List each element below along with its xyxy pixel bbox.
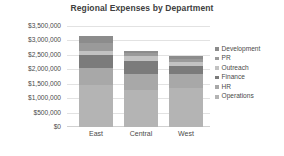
legend-label: Operations — [222, 93, 254, 100]
bar-segment-finance[interactable] — [124, 61, 158, 74]
legend-item-hr[interactable]: HR — [215, 82, 284, 92]
legend-label: PR — [222, 55, 231, 62]
bar-segment-operations[interactable] — [169, 88, 203, 127]
y-axis: $3,500,000$3,000,000$2,500,000$2,000,000… — [0, 26, 64, 127]
bar-segment-hr[interactable] — [124, 74, 158, 90]
chart-title: Regional Expenses by Department — [0, 3, 284, 13]
bar-segment-pr[interactable] — [79, 43, 113, 50]
y-axis-tick-label: $3,500,000 — [28, 23, 61, 30]
legend-item-pr[interactable]: PR — [215, 54, 284, 64]
bar-segment-development[interactable] — [79, 36, 113, 43]
plot-area: EastCentralWest — [67, 26, 210, 127]
y-axis-tick-label: $3,000,000 — [28, 37, 61, 44]
chart-container: Regional Expenses by Department $3,500,0… — [0, 0, 284, 156]
legend-swatch-icon — [215, 85, 219, 89]
y-axis-tick-label: $1,000,000 — [28, 95, 61, 102]
legend-label: Outreach — [222, 65, 249, 72]
legend-label: HR — [222, 84, 232, 91]
legend-swatch-icon — [215, 47, 219, 51]
legend-label: Development — [222, 46, 261, 53]
stacked-bar[interactable] — [169, 56, 203, 127]
legend-swatch-icon — [215, 76, 219, 80]
bar-segment-hr[interactable] — [169, 74, 203, 88]
legend-label: Finance — [222, 74, 245, 81]
bar-segment-finance[interactable] — [79, 55, 113, 68]
y-axis-tick-label: $500,000 — [33, 109, 61, 116]
y-axis-tick-label: $1,500,000 — [28, 80, 61, 87]
legend-swatch-icon — [215, 57, 219, 61]
stacked-bar[interactable] — [79, 36, 113, 127]
legend-item-development[interactable]: Development — [215, 44, 284, 54]
bar-segment-finance[interactable] — [169, 66, 203, 73]
gridline — [67, 26, 210, 27]
x-axis-category-label: West — [156, 130, 216, 137]
y-axis-tick-label: $2,500,000 — [28, 52, 61, 59]
legend-item-operations[interactable]: Operations — [215, 92, 284, 102]
bar-segment-operations[interactable] — [124, 90, 158, 128]
legend-item-finance[interactable]: Finance — [215, 73, 284, 83]
legend-swatch-icon — [215, 66, 219, 70]
bar-segment-hr[interactable] — [79, 68, 113, 85]
stacked-bar[interactable] — [124, 51, 158, 127]
y-axis-tick-label: $0 — [54, 124, 61, 131]
legend-item-outreach[interactable]: Outreach — [215, 63, 284, 73]
y-axis-tick-label: $2,000,000 — [28, 66, 61, 73]
legend-swatch-icon — [215, 95, 219, 99]
chart-legend: DevelopmentPROutreachFinanceHROperations — [215, 44, 284, 102]
bar-segment-operations[interactable] — [79, 85, 113, 127]
